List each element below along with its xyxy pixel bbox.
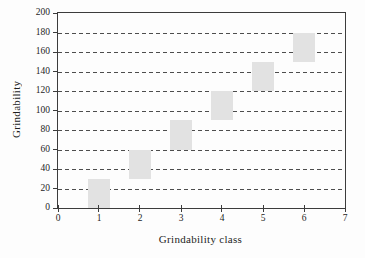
range-bar bbox=[88, 179, 111, 208]
x-tick-label: 3 bbox=[179, 214, 184, 224]
y-gridline bbox=[58, 111, 345, 112]
y-tick-label: 140 bbox=[36, 67, 50, 77]
y-tick-label: 160 bbox=[36, 47, 50, 57]
range-bar bbox=[170, 120, 193, 149]
y-tick-label: 100 bbox=[36, 106, 50, 116]
y-tick bbox=[53, 13, 58, 14]
range-bar bbox=[293, 33, 316, 62]
x-tick-label: 2 bbox=[138, 214, 143, 224]
x-tick bbox=[345, 205, 346, 212]
y-gridline bbox=[58, 130, 345, 131]
y-gridline bbox=[58, 150, 345, 151]
x-tick bbox=[221, 205, 222, 212]
y-tick-label: 60 bbox=[41, 145, 51, 155]
y-axis-title: Grindability bbox=[9, 12, 23, 207]
plot-area: 02040608010012014016018020001234567 bbox=[57, 12, 346, 209]
y-tick bbox=[53, 52, 58, 53]
range-bar bbox=[129, 150, 152, 179]
x-axis-title: Grindability class bbox=[57, 233, 344, 245]
y-tick-label: 80 bbox=[41, 125, 51, 135]
y-gridline bbox=[58, 169, 345, 170]
y-tick bbox=[53, 169, 58, 170]
x-tick-label: 4 bbox=[220, 214, 225, 224]
x-tick-label: 7 bbox=[343, 214, 348, 224]
y-tick bbox=[53, 149, 58, 150]
y-tick-label: 200 bbox=[36, 8, 50, 18]
y-tick bbox=[53, 71, 58, 72]
y-tick bbox=[53, 110, 58, 111]
y-gridline bbox=[58, 72, 345, 73]
y-tick-label: 0 bbox=[45, 203, 50, 213]
x-tick bbox=[263, 205, 264, 212]
y-tick-label: 40 bbox=[41, 164, 51, 174]
y-tick-label: 120 bbox=[36, 86, 50, 96]
y-tick bbox=[53, 91, 58, 92]
x-tick bbox=[181, 205, 182, 212]
y-gridline bbox=[58, 91, 345, 92]
x-tick-label: 0 bbox=[56, 214, 61, 224]
x-tick-label: 6 bbox=[302, 214, 307, 224]
grindability-figure: Grindability 020406080100120140160180200… bbox=[0, 0, 365, 258]
y-tick bbox=[53, 130, 58, 131]
x-tick bbox=[304, 205, 305, 212]
y-tick bbox=[53, 188, 58, 189]
x-tick bbox=[58, 205, 59, 212]
range-bar bbox=[252, 62, 275, 91]
y-tick bbox=[53, 32, 58, 33]
y-tick-label: 20 bbox=[41, 184, 51, 194]
x-tick bbox=[139, 205, 140, 212]
x-tick bbox=[98, 205, 99, 212]
range-bar bbox=[211, 91, 234, 120]
x-tick-label: 1 bbox=[97, 214, 102, 224]
x-tick-label: 5 bbox=[261, 214, 266, 224]
y-tick-label: 180 bbox=[36, 28, 50, 38]
